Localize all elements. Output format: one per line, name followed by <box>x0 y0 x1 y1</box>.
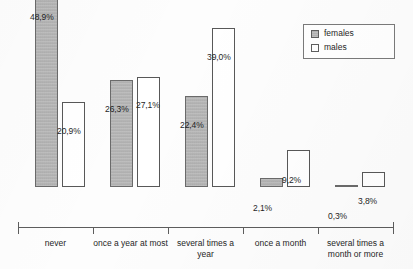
x-axis-label-once-a-month: once a month <box>243 238 318 249</box>
bar-females-several-times-a-month-or-more <box>335 185 358 187</box>
x-axis-label-never-line1: never <box>18 238 93 249</box>
x-axis-label-several-times-a-month-or-more: several times a month or more <box>318 238 393 260</box>
bar-females-several-times-a-year <box>185 96 208 187</box>
bar-males-once-a-year-at-most <box>137 77 160 187</box>
legend-item-females[interactable]: females <box>311 29 354 38</box>
bar-label-males-several-times-a-year: 39,0% <box>207 52 231 62</box>
legend-swatch-males-icon <box>311 44 319 52</box>
legend-label-males: males <box>324 43 347 52</box>
bar-females-never <box>35 0 58 187</box>
x-axis-line <box>18 227 394 228</box>
bar-chart-figure: 48,9% 20,9% 26,3% 27,1% 22,4% 39,0% 2,1%… <box>0 0 413 269</box>
bar-males-several-times-a-month-or-more <box>362 172 385 187</box>
x-axis-label-once-a-year-at-most: once a year at most <box>91 238 170 249</box>
x-axis-label-several-times-a-year-line2: year <box>168 249 243 260</box>
axis-tick-1 <box>93 228 94 234</box>
x-axis-label-several-times-a-month-or-more-line2: month or more <box>318 249 393 260</box>
bar-label-females-never: 48,9% <box>30 12 54 22</box>
bar-label-males-never: 20,9% <box>57 126 81 136</box>
bar-females-once-a-month <box>260 178 283 187</box>
bar-label-males-once-a-year-at-most: 27,1% <box>136 100 160 110</box>
axis-tick-3 <box>243 228 244 234</box>
bar-label-males-several-times-a-month-or-more: 3,8% <box>358 196 377 206</box>
axis-tick-2 <box>168 228 169 234</box>
bar-label-females-several-times-a-month-or-more: 0,3% <box>328 211 347 221</box>
axis-tick-4 <box>318 228 319 234</box>
bar-males-never <box>62 102 85 187</box>
legend: females males <box>303 24 395 59</box>
x-axis-label-once-a-month-line1: once a month <box>243 238 318 249</box>
bar-label-females-once-a-year-at-most: 26,3% <box>105 104 129 114</box>
axis-tick-5 <box>393 228 394 234</box>
bar-label-females-once-a-month: 2,1% <box>253 203 272 213</box>
legend-swatch-females-icon <box>311 30 319 38</box>
bar-females-once-a-year-at-most <box>110 80 133 187</box>
x-axis-label-several-times-a-year-line1: several times a <box>168 238 243 249</box>
legend-label-females: females <box>324 29 354 38</box>
axis-tick-0 <box>18 228 19 234</box>
plot-area: 48,9% 20,9% 26,3% 27,1% 22,4% 39,0% 2,1%… <box>0 0 413 229</box>
x-axis-label-never: never <box>18 238 93 249</box>
bar-label-females-several-times-a-year: 22,4% <box>180 120 204 130</box>
bar-label-males-once-a-month: 9,2% <box>282 175 301 185</box>
x-axis-label-several-times-a-year: several times a year <box>168 238 243 260</box>
x-axis-label-several-times-a-month-or-more-line1: several times a <box>318 238 393 249</box>
legend-item-males[interactable]: males <box>311 43 347 52</box>
x-axis-label-once-a-year-at-most-line1: once a year at most <box>91 238 170 249</box>
